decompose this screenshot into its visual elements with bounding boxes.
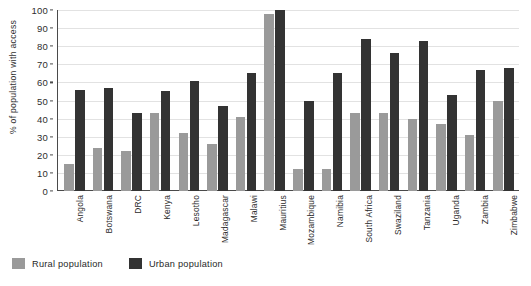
x-axis-tick: Madagascar <box>201 193 230 249</box>
bar <box>121 151 131 191</box>
legend-label: Rural population <box>32 259 103 269</box>
bar <box>379 113 389 191</box>
bar-group <box>318 10 347 191</box>
bar <box>75 90 85 191</box>
bar-group <box>146 10 175 191</box>
y-axis-tick-mark <box>50 9 54 10</box>
bar <box>264 14 274 191</box>
x-axis-tick: Botswana <box>86 193 115 249</box>
bar-group <box>60 10 89 191</box>
y-axis-tick-label: 90 <box>37 23 48 34</box>
legend-item: Urban population <box>129 258 223 269</box>
y-axis-tick-label: 10 <box>37 167 48 178</box>
y-axis-tick-mark <box>50 172 54 173</box>
bar-group <box>89 10 118 191</box>
bar <box>390 53 400 191</box>
legend: Rural populationUrban population <box>12 258 223 269</box>
bar <box>93 148 103 191</box>
chart-container: % of population with access 010203040506… <box>0 0 531 286</box>
x-axis-tick: Namibia <box>317 193 346 249</box>
bar-group <box>232 10 261 191</box>
legend-item: Rural population <box>12 258 103 269</box>
bar <box>161 91 171 191</box>
x-axis-tick: Mozambique <box>288 193 317 249</box>
x-axis-tick-label: Swaziland <box>393 195 403 235</box>
bar <box>476 70 486 191</box>
bar-group <box>289 10 318 191</box>
x-axis-tick-label: Uganda <box>451 195 461 226</box>
bar-group <box>203 10 232 191</box>
bar <box>64 164 74 191</box>
y-axis-tick-mark <box>50 46 54 47</box>
bar <box>247 73 257 191</box>
bar <box>150 113 160 191</box>
bar <box>132 113 142 191</box>
y-axis-tick-label: 50 <box>37 95 48 106</box>
y-axis-tick-mark <box>50 100 54 101</box>
bar <box>504 68 514 191</box>
x-axis-tick: Tanzania <box>404 193 433 249</box>
bar <box>218 106 228 191</box>
bar <box>207 144 217 191</box>
x-axis-tick-label: Lesotho <box>191 195 201 226</box>
bar <box>419 41 429 191</box>
bar <box>104 88 114 191</box>
legend-swatch <box>129 258 142 269</box>
bar-groups <box>57 10 519 191</box>
x-axis-tick: Lesotho <box>173 193 202 249</box>
bar <box>333 73 343 191</box>
bar-group <box>404 10 433 191</box>
bar <box>236 117 246 191</box>
y-axis-tick-mark <box>50 64 54 65</box>
y-axis-tick-label: 30 <box>37 131 48 142</box>
bar <box>293 169 303 191</box>
bar-group <box>432 10 461 191</box>
x-axis-tick-label: Mauritius <box>278 195 288 231</box>
bar-group <box>260 10 289 191</box>
y-axis-tick-label: 100 <box>32 5 48 16</box>
x-axis-tick: Malawi <box>230 193 259 249</box>
bar <box>408 119 418 191</box>
bar <box>350 113 360 191</box>
x-axis-tick-label: Zimbabwe <box>509 195 519 235</box>
y-axis-tick-mark <box>50 154 54 155</box>
x-axis-tick-label: Angola <box>75 195 85 222</box>
bar <box>361 39 371 191</box>
x-axis-tick-label: Mozambique <box>306 195 316 245</box>
bar <box>190 81 200 191</box>
y-axis: 0102030405060708090100 <box>0 10 53 191</box>
bar <box>179 133 189 191</box>
bar <box>275 10 285 191</box>
x-axis-tick: Zambia <box>461 193 490 249</box>
bar <box>447 95 457 191</box>
x-axis-tick: Angola <box>57 193 86 249</box>
bar-group <box>489 10 518 191</box>
bar-group <box>117 10 146 191</box>
x-axis-tick-label: Madagascar <box>220 195 230 243</box>
x-axis-tick: Uganda <box>432 193 461 249</box>
x-axis-tick: Swaziland <box>375 193 404 249</box>
y-axis-tick-mark <box>50 136 54 137</box>
bar <box>304 101 314 192</box>
x-axis-tick-label: South Africa <box>364 195 374 243</box>
bar-group <box>375 10 404 191</box>
x-axis-tick-label: Namibia <box>335 195 345 227</box>
x-axis-tick: DRC <box>115 193 144 249</box>
y-axis-tick-label: 0 <box>43 186 48 197</box>
x-axis-tick: Mauritius <box>259 193 288 249</box>
x-axis-tick-label: Botswana <box>104 195 114 233</box>
bar-group <box>346 10 375 191</box>
y-axis-tick-mark <box>50 82 54 83</box>
y-axis-tick-label: 20 <box>37 149 48 160</box>
x-axis-tick-label: Kenya <box>162 195 172 220</box>
x-axis-tick-label: Zambia <box>480 195 490 224</box>
x-axis-tick-label: Malawi <box>249 195 259 222</box>
x-axis-tick: South Africa <box>346 193 375 249</box>
x-axis-tick-label: Tanzania <box>422 195 432 230</box>
y-axis-tick-mark <box>50 118 54 119</box>
y-axis-tick-label: 40 <box>37 113 48 124</box>
bar-group <box>461 10 490 191</box>
y-axis-tick-label: 60 <box>37 77 48 88</box>
y-axis-tick-mark <box>50 190 54 191</box>
x-axis: AngolaBotswanaDRCKenyaLesothoMadagascarM… <box>57 193 519 249</box>
